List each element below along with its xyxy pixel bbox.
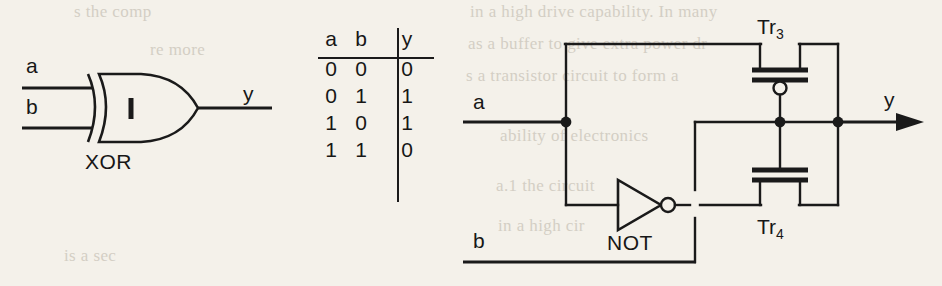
not-gate-body	[618, 180, 661, 230]
circuit-input-a-label: a	[473, 90, 485, 114]
junction-dot-gate-node	[775, 117, 786, 128]
output-arrowhead-icon	[896, 113, 924, 131]
tr3-gate-bubble	[774, 82, 787, 95]
tr4-label: Tr4	[757, 215, 784, 242]
junction-dot-input-a	[561, 117, 572, 128]
junction-dot-output	[833, 117, 844, 128]
tr3-label-subscript: 3	[776, 26, 784, 42]
not-gate-label: NOT	[607, 231, 653, 255]
tr4-label-text: Tr	[757, 215, 776, 238]
circuit-output-y-label: y	[884, 88, 895, 112]
figure-canvas: in a high drive capability. In many as a…	[0, 0, 942, 286]
tr4-label-subscript: 4	[776, 226, 784, 242]
circuit-input-b-label: b	[473, 229, 485, 253]
not-gate-bubble	[661, 198, 675, 212]
tr3-label: Tr3	[757, 15, 784, 42]
transistor-circuit-drawing	[0, 0, 942, 286]
tr3-label-text: Tr	[757, 15, 776, 38]
